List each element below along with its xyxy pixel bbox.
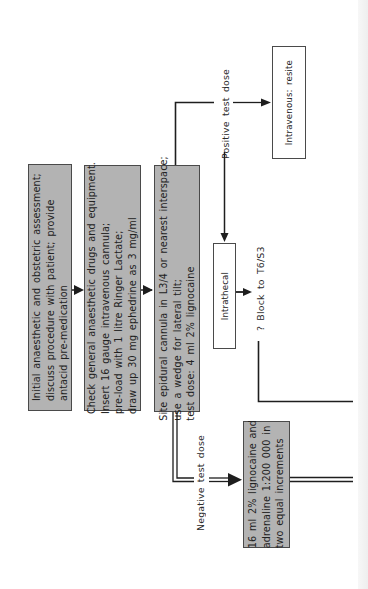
positive-branch-line xyxy=(176,99,272,166)
negative-branch-double-line xyxy=(173,412,234,482)
negative-branch-arrowhead xyxy=(228,473,242,487)
arrow-step1-to-step2 xyxy=(72,285,84,295)
arrow-intrathecal-to-block xyxy=(236,288,252,296)
block-continuation-line xyxy=(259,341,354,402)
connector-lines xyxy=(0,0,368,589)
arrow-to-intrathecal xyxy=(221,152,229,242)
arrow-step2-to-step3 xyxy=(141,285,153,295)
lignocaine-continuation-double-line xyxy=(290,478,353,482)
